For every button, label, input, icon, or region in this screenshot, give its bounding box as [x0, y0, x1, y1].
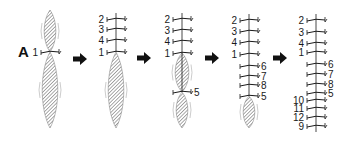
suture-band-2: 2: [231, 15, 260, 26]
band-tick-right: [258, 73, 260, 78]
band-tick-right: [325, 105, 327, 110]
stage-3: 23415: [164, 13, 200, 128]
band-label: 4: [164, 36, 170, 47]
band-label: 3: [298, 27, 304, 38]
suture-band-5: 5: [173, 87, 200, 98]
suture-band-4: 4: [164, 36, 193, 47]
band-label: 3: [164, 25, 170, 36]
band-label: 1: [164, 48, 170, 59]
band-tick-right: [191, 27, 193, 32]
band-tick-right: [325, 61, 327, 66]
band-tick-right: [191, 89, 193, 94]
band-tick-right: [125, 16, 127, 21]
band-tick-right: [258, 39, 260, 44]
suture-band-1: 1: [32, 47, 61, 58]
band-label: 1: [298, 47, 304, 58]
band-label: 1: [231, 49, 237, 60]
suture-band-2: 2: [164, 14, 193, 25]
band-tick-right: [258, 82, 260, 87]
spindle-segment: [176, 92, 188, 128]
band-tick-right: [258, 17, 260, 22]
band-label: 5: [328, 88, 334, 99]
band-tick-right: [191, 50, 193, 55]
band-label: 3: [98, 24, 104, 35]
band-label: 8: [261, 80, 267, 91]
band-tick-right: [325, 17, 327, 22]
band-label: 2: [164, 14, 170, 25]
spindle-segment: [44, 10, 56, 52]
suture-band-9: 9: [298, 121, 327, 132]
suture-band-5: 5: [240, 91, 267, 102]
suture-band-1: 1: [231, 49, 260, 60]
band-tick-right: [325, 114, 327, 119]
stages-group: 123412341523416785234167851011129: [32, 10, 334, 132]
band-label: 4: [231, 37, 237, 48]
band-tick-right: [258, 63, 260, 68]
band-tick-right: [325, 49, 327, 54]
spindle-outline-arc: [105, 82, 106, 98]
band-label: 5: [194, 87, 200, 98]
band-tick-right: [325, 29, 327, 34]
band-label: 4: [98, 35, 104, 46]
band-tick-right: [125, 49, 127, 54]
band-label: 9: [298, 121, 304, 132]
band-tick-right: [191, 38, 193, 43]
spindle-outline-arc: [58, 23, 59, 39]
band-label: 1: [98, 47, 104, 58]
suture-band-8: 8: [240, 80, 267, 91]
spindle-outline-arc: [39, 82, 40, 98]
suture-band-4: 4: [231, 37, 260, 48]
band-tick-right: [125, 37, 127, 42]
band-tick-right: [258, 28, 260, 33]
spindle-outline-arc: [126, 82, 127, 98]
spindle-segment: [108, 52, 124, 128]
spindle-segment: [243, 96, 255, 128]
band-label: 1: [32, 47, 38, 58]
arrow-right-icon: [273, 52, 287, 64]
arrow-right-icon: [73, 53, 87, 65]
arrow-right-icon: [205, 52, 219, 64]
band-tick-right: [325, 81, 327, 86]
band-tick-right: [325, 40, 327, 45]
spindle-outline-arc: [257, 104, 258, 120]
band-label: 5: [261, 91, 267, 102]
band-tick-right: [325, 71, 327, 76]
suture-band-1: 1: [298, 47, 327, 58]
band-tick-right: [59, 49, 61, 54]
suture-band-5: 5: [307, 88, 334, 99]
suture-band-2: 2: [298, 15, 327, 26]
suture-diagram: A 123412341523416785234167851011129: [0, 0, 354, 147]
band-label: 2: [298, 15, 304, 26]
stage-4: 23416785: [231, 14, 267, 128]
band-tick-right: [325, 123, 327, 128]
spindle-outline-arc: [41, 23, 42, 39]
suture-band-3: 3: [164, 25, 193, 36]
suture-band-3: 3: [231, 26, 260, 37]
stage-2: 2341: [98, 13, 127, 128]
band-tick-right: [258, 51, 260, 56]
band-tick-right: [125, 26, 127, 31]
spindle-outline-arc: [173, 102, 174, 118]
band-label: 3: [231, 26, 237, 37]
stage-5: 234167851011129: [293, 14, 334, 132]
band-tick-right: [325, 97, 327, 102]
spindle-outline-arc: [60, 82, 61, 98]
suture-band-3: 3: [98, 24, 127, 35]
band-tick-right: [258, 93, 260, 98]
spindle-outline-arc: [190, 102, 191, 118]
spindle-segment: [42, 52, 58, 128]
band-label: 2: [231, 15, 237, 26]
band-tick-right: [325, 90, 327, 95]
suture-band-3: 3: [298, 27, 327, 38]
panel-label: A: [18, 43, 29, 60]
suture-band-1: 1: [98, 47, 127, 58]
spindle-outline-arc: [191, 65, 192, 81]
arrow-right-icon: [137, 52, 151, 64]
spindle-outline-arc: [240, 104, 241, 120]
suture-band-4: 4: [98, 35, 127, 46]
stage-1: 1: [32, 10, 61, 128]
spindle-outline-arc: [172, 65, 173, 81]
band-tick-right: [191, 16, 193, 21]
